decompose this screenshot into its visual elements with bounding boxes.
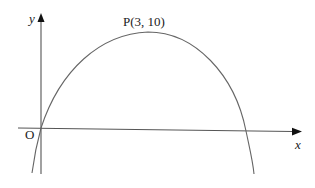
x-axis-arrow-icon — [292, 128, 302, 136]
parabola-curve — [32, 32, 254, 174]
y-axis-arrow-icon — [38, 13, 45, 22]
x-axis — [18, 128, 293, 132]
y-axis-label: y — [27, 11, 35, 26]
origin-label: O — [25, 127, 34, 142]
x-axis-label: x — [294, 137, 301, 152]
parabola-diagram: y x O P(3, 10) — [0, 0, 315, 188]
vertex-label: P(3, 10) — [123, 14, 165, 29]
